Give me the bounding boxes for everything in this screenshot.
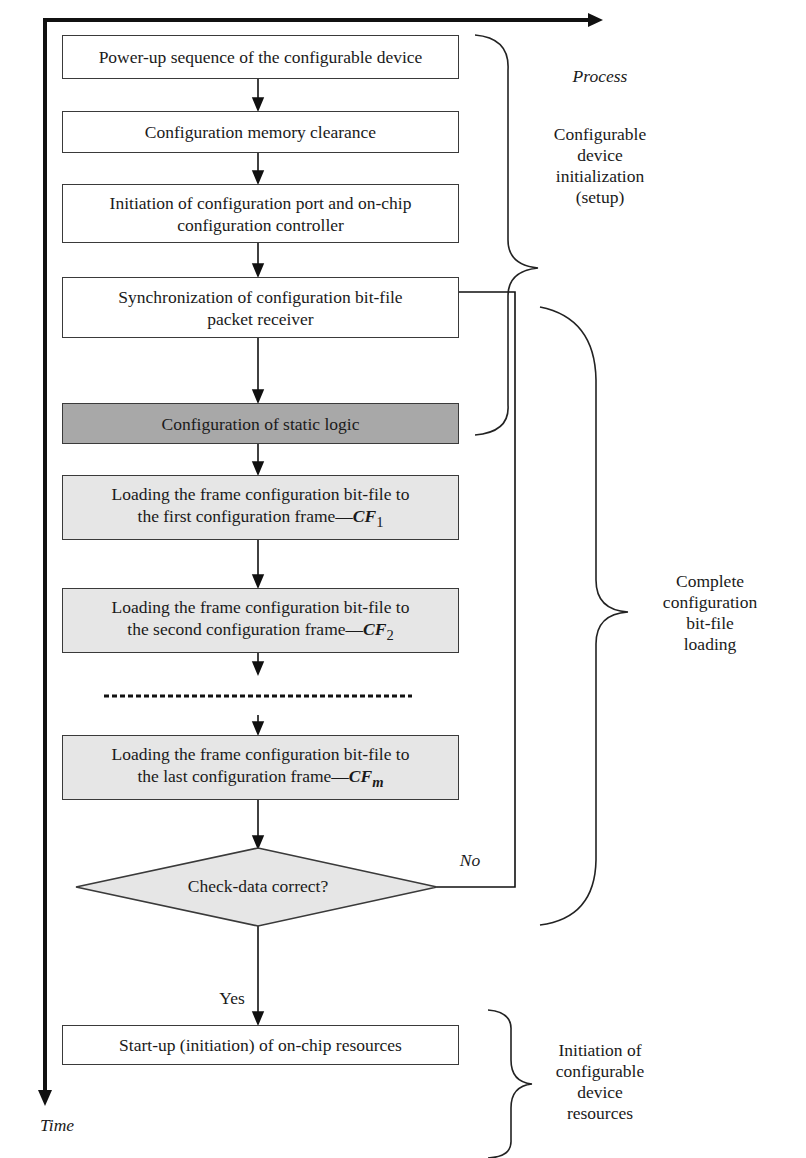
- step-load-cfm-line2: the last configuration frame—: [137, 766, 348, 786]
- step-memory-clearance: Configuration memory clearance: [62, 111, 459, 153]
- step-load-cfm-line1: Loading the frame configuration bit-file…: [112, 743, 410, 765]
- phase-setup-line: Configurable: [535, 124, 665, 145]
- step-load-cf2: Loading the frame configuration bit-file…: [62, 588, 459, 653]
- cf-symbol: CF: [353, 506, 376, 526]
- step-init-port-line1: Initiation of configuration port and on-…: [110, 192, 412, 214]
- phase-loading-line: Complete: [645, 571, 775, 592]
- step-init-port-line2: configuration controller: [177, 214, 344, 236]
- phase-resources-line: device: [535, 1082, 665, 1103]
- step-power-up: Power-up sequence of the configurable de…: [62, 35, 459, 79]
- step-load-cf1-line1: Loading the frame configuration bit-file…: [112, 483, 410, 505]
- phase-loading-line: bit-file: [645, 613, 775, 634]
- step-load-cf1-line2: the first configuration frame—: [138, 506, 353, 526]
- step-startup: Start-up (initiation) of on-chip resourc…: [62, 1025, 459, 1065]
- step-sync: Synchronization of configuration bit-fil…: [62, 277, 459, 338]
- cf-subscript: 1: [376, 513, 383, 529]
- step-load-cf2-line2: the second configuration frame—: [127, 619, 363, 639]
- cf-subscript: 2: [386, 626, 393, 642]
- phase-setup-line: (setup): [535, 187, 665, 208]
- step-memory-clearance-text: Configuration memory clearance: [145, 121, 376, 143]
- yes-label: Yes: [212, 988, 252, 1009]
- step-load-cf1: Loading the frame configuration bit-file…: [62, 475, 459, 540]
- step-static-logic-text: Configuration of static logic: [162, 413, 360, 435]
- step-load-cf2-line1: Loading the frame configuration bit-file…: [112, 596, 410, 618]
- step-power-up-text: Power-up sequence of the configurable de…: [99, 46, 423, 68]
- phase-loading-label: Complete configuration bit-file loading: [645, 571, 775, 655]
- cf-symbol: CF: [363, 619, 386, 639]
- step-init-port: Initiation of configuration port and on-…: [62, 184, 459, 243]
- cf-subscript: m: [372, 773, 383, 789]
- phase-setup-line: device: [535, 145, 665, 166]
- phase-resources-line: resources: [535, 1103, 665, 1124]
- no-label: No: [455, 850, 485, 871]
- cf-symbol: CF: [349, 766, 372, 786]
- step-load-cfm: Loading the frame configuration bit-file…: [62, 735, 459, 800]
- time-axis-label: Time: [40, 1115, 90, 1136]
- phase-resources-line: Initiation of: [535, 1040, 665, 1061]
- decision-text: Check-data correct?: [158, 876, 358, 897]
- step-sync-line2: packet receiver: [207, 308, 313, 330]
- time-axis: [38, 13, 603, 1106]
- phase-resources-line: configurable: [535, 1061, 665, 1082]
- step-sync-line1: Synchronization of configuration bit-fil…: [118, 286, 402, 308]
- phase-setup-line: initialization: [535, 166, 665, 187]
- step-startup-text: Start-up (initiation) of on-chip resourc…: [119, 1034, 402, 1056]
- phase-loading-line: loading: [645, 634, 775, 655]
- phase-loading-line: configuration: [645, 592, 775, 613]
- phase-resources-label: Initiation of configurable device resour…: [535, 1040, 665, 1124]
- process-header: Process: [555, 66, 645, 87]
- phase-setup-label: Configurable device initialization (setu…: [535, 124, 665, 208]
- step-static-logic: Configuration of static logic: [62, 403, 459, 444]
